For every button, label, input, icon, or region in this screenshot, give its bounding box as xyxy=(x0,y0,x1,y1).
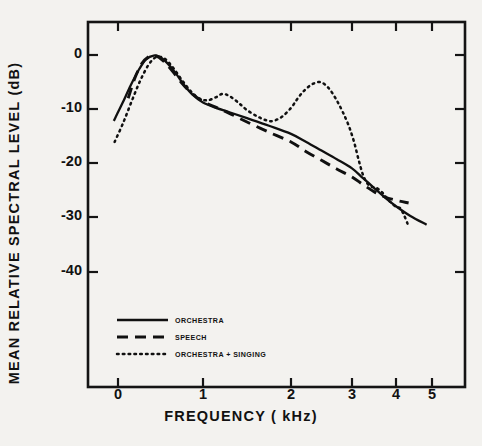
xtick-label-3: 3 xyxy=(338,386,366,402)
xtick-label-2: 2 xyxy=(277,386,305,402)
ytick-label-m30: -30 xyxy=(42,207,82,223)
ytick-label-m20: -20 xyxy=(42,153,82,169)
chart-plot-area xyxy=(0,0,482,446)
axis-ticks xyxy=(88,22,465,387)
ytick-label-0: 0 xyxy=(42,45,82,61)
xtick-label-0: 0 xyxy=(104,386,132,402)
series-line-0 xyxy=(114,55,427,224)
legend-sample-lines xyxy=(117,320,168,354)
ytick-label-m40: -40 xyxy=(42,262,82,278)
legend-label-orchestra-singing: ORCHESTRA + SINGING xyxy=(175,351,266,359)
figure-container: MEAN RELATIVE SPECTRAL LEVEL (dB) FREQUE… xyxy=(0,0,482,446)
series-line-2 xyxy=(115,57,408,224)
ytick-label-m10: -10 xyxy=(42,99,82,115)
xtick-label-4: 4 xyxy=(382,386,410,402)
axes-frame xyxy=(88,22,465,387)
xtick-label-1: 1 xyxy=(189,386,217,402)
legend-label-orchestra: ORCHESTRA xyxy=(175,317,224,325)
legend-label-speech: SPEECH xyxy=(175,334,207,342)
xtick-label-5: 5 xyxy=(418,386,446,402)
data-series-group xyxy=(114,55,427,225)
